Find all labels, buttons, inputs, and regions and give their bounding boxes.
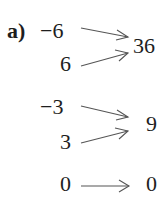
arrow-icon: [81, 106, 128, 120]
arrow-icon: [81, 180, 129, 192]
arrow-icon: [81, 128, 128, 143]
arrow-icon: [81, 50, 128, 66]
mapping-arrows: [0, 0, 163, 207]
arrow-icon: [81, 28, 128, 40]
